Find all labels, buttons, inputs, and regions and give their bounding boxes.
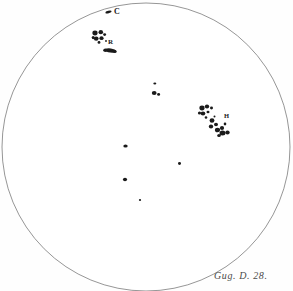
sunspot-mark bbox=[152, 91, 157, 95]
sunspot-mark bbox=[153, 82, 156, 84]
sunspot-mark bbox=[123, 178, 127, 182]
solar-disk-circle bbox=[2, 3, 290, 291]
sunspot-mark bbox=[92, 31, 97, 36]
sunspot-mark bbox=[220, 126, 224, 130]
sunspot-label-r: R bbox=[108, 39, 113, 46]
sunspot-mark bbox=[103, 49, 107, 52]
sunspot-mark bbox=[215, 128, 220, 133]
sunspot-mark bbox=[199, 106, 204, 111]
sunspot-mark bbox=[225, 131, 229, 135]
drawing-signature-date: Gug. D. 28. bbox=[214, 270, 268, 281]
sunspot-mark bbox=[105, 40, 107, 42]
sunspot-mark bbox=[224, 123, 227, 126]
sunspot-label-c: C bbox=[114, 8, 120, 16]
sunspot-label-h: H bbox=[224, 113, 229, 120]
solar-disk-outline-layer bbox=[2, 3, 290, 291]
sunspot-mark bbox=[210, 107, 213, 110]
sunspot-drawing-plate: C R H Gug. D. 28. bbox=[0, 0, 293, 291]
sunspot-mark bbox=[92, 36, 95, 39]
sunspot-mark bbox=[113, 50, 117, 53]
sunspot-mark bbox=[205, 116, 208, 118]
sunspot-mark bbox=[207, 111, 210, 114]
sunspot-mark bbox=[103, 33, 106, 36]
sunspot-mark bbox=[205, 105, 209, 109]
sunspot-mark bbox=[201, 112, 206, 116]
sunspot-mark bbox=[214, 123, 218, 127]
sunspot-mark bbox=[209, 125, 213, 129]
sunspot-mark bbox=[217, 134, 221, 137]
sunspot-mark bbox=[98, 41, 101, 44]
sunspot-mark bbox=[157, 93, 160, 96]
sunspot-mark bbox=[178, 162, 181, 165]
sunspot-mark bbox=[214, 116, 216, 118]
sunspot-mark bbox=[210, 118, 215, 122]
sunspot-mark bbox=[139, 199, 141, 201]
sunspot-mark bbox=[198, 112, 201, 115]
sunspot-mark bbox=[123, 144, 127, 147]
sunspot-mark bbox=[99, 30, 104, 34]
sunspot-mark bbox=[99, 36, 103, 40]
solar-disk-figure bbox=[0, 0, 293, 291]
